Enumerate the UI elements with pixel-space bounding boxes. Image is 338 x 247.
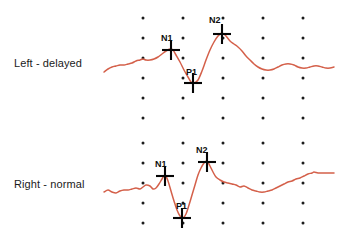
trace-label-left: Left - delayed	[14, 57, 82, 69]
peak-label-left-n1: N1	[161, 33, 173, 43]
peak-label-right-p1: P1	[176, 201, 187, 211]
peak-label-right-n1: N1	[155, 159, 167, 169]
peak-label-right-n2: N2	[196, 145, 208, 155]
peak-label-left-n2: N2	[209, 15, 221, 25]
peak-label-left-p1: P1	[186, 67, 197, 77]
trace-label-right: Right - normal	[14, 178, 84, 190]
vep-figure: Left - delayed Right - normal N1 P1 N2 N…	[0, 0, 338, 247]
